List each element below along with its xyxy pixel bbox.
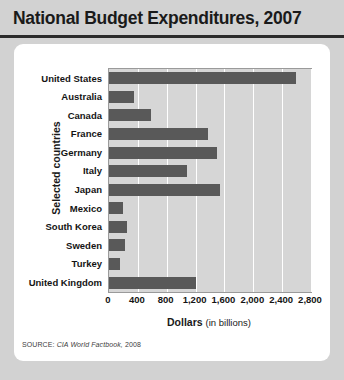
bar-row: France bbox=[109, 125, 311, 144]
category-label: Germany bbox=[61, 148, 102, 158]
gridline bbox=[311, 69, 312, 292]
x-tick-label: 2,400 bbox=[269, 294, 293, 305]
bar-row: South Korea bbox=[109, 218, 311, 237]
source-note: SOURCE: CIA World Factbook, 2008 bbox=[22, 341, 141, 348]
bar bbox=[109, 72, 296, 84]
page-title: National Budget Expenditures, 2007 bbox=[13, 8, 301, 29]
bar-row: Japan bbox=[109, 180, 311, 199]
category-label: Japan bbox=[75, 185, 102, 195]
source-publication: CIA World Factbook, bbox=[57, 341, 123, 348]
x-tick-label: 2,800 bbox=[298, 294, 322, 305]
category-label: United Kingdom bbox=[29, 278, 102, 288]
y-axis-title: Selected countries bbox=[50, 108, 62, 228]
title-divider bbox=[0, 35, 344, 38]
chart-card: Selected countries United StatesAustrali… bbox=[14, 44, 330, 361]
title-band: National Budget Expenditures, 2007 bbox=[0, 0, 344, 40]
x-axis-title-unit: (in billions) bbox=[206, 317, 251, 328]
bar-rows: United StatesAustraliaCanadaFranceGerman… bbox=[109, 69, 311, 292]
bar-row: Australia bbox=[109, 88, 311, 107]
category-label: Australia bbox=[61, 92, 102, 102]
bar bbox=[109, 109, 151, 121]
category-label: Canada bbox=[68, 111, 102, 121]
bar bbox=[109, 239, 125, 251]
category-label: South Korea bbox=[46, 222, 102, 232]
source-year: 2008 bbox=[125, 341, 141, 348]
bar-row: United States bbox=[109, 69, 311, 88]
x-axis-title-main: Dollars bbox=[167, 316, 203, 328]
bar bbox=[109, 128, 208, 140]
bar bbox=[109, 221, 127, 233]
bar-row: Sweden bbox=[109, 236, 311, 255]
source-prefix: SOURCE: bbox=[22, 341, 55, 348]
bar-row: United Kingdom bbox=[109, 273, 311, 292]
category-label: United States bbox=[41, 74, 102, 84]
bar-row: Canada bbox=[109, 106, 311, 125]
x-tick-label: 1,200 bbox=[183, 294, 207, 305]
x-tick-label: 0 bbox=[105, 294, 110, 305]
bar bbox=[109, 202, 123, 214]
bar-row: Germany bbox=[109, 143, 311, 162]
x-tick-label: 400 bbox=[129, 294, 145, 305]
bar bbox=[109, 91, 134, 103]
x-axis-ticks: 04008001,2001,6002,0002,4002,800 bbox=[108, 294, 310, 308]
plot-area: United StatesAustraliaCanadaFranceGerman… bbox=[108, 68, 312, 293]
bar-row: Turkey bbox=[109, 255, 311, 274]
category-label: Mexico bbox=[70, 204, 102, 214]
x-tick-label: 800 bbox=[158, 294, 174, 305]
category-label: Turkey bbox=[72, 259, 102, 269]
bar bbox=[109, 258, 120, 270]
chart-figure: National Budget Expenditures, 2007 Selec… bbox=[0, 0, 344, 380]
x-tick-label: 2,000 bbox=[240, 294, 264, 305]
category-label: Sweden bbox=[66, 241, 102, 251]
bar-row: Italy bbox=[109, 162, 311, 181]
bar bbox=[109, 147, 217, 159]
bar bbox=[109, 277, 196, 289]
category-label: France bbox=[71, 129, 102, 139]
bar bbox=[109, 165, 187, 177]
category-label: Italy bbox=[83, 166, 102, 176]
x-tick-label: 1,600 bbox=[212, 294, 236, 305]
bar bbox=[109, 184, 220, 196]
bar-row: Mexico bbox=[109, 199, 311, 218]
x-axis-title: Dollars (in billions) bbox=[108, 316, 310, 328]
